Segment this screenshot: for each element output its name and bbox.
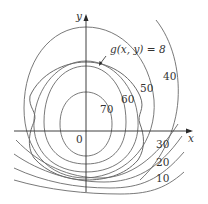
contour-diagram: y x 0 g(x, y) = 8 70 60 50 40 30 20 10 <box>0 0 208 204</box>
level-label-40: 40 <box>163 70 176 82</box>
level-label-30: 30 <box>156 138 169 150</box>
level-curve-30 <box>16 124 178 178</box>
x-axis-label: x <box>188 132 194 144</box>
origin-label: 0 <box>76 133 83 145</box>
level-label-70: 70 <box>100 103 113 115</box>
level-label-10: 10 <box>156 172 169 184</box>
level-label-50: 50 <box>140 82 153 94</box>
y-axis-arrow-icon <box>84 14 89 21</box>
level-curve-60 <box>44 66 126 164</box>
constraint-label: g(x, y) = 8 <box>110 43 166 55</box>
contour-plot: y x 0 g(x, y) = 8 70 60 50 40 30 20 10 <box>0 0 208 204</box>
level-label-60: 60 <box>121 93 134 105</box>
level-label-20: 20 <box>156 156 169 168</box>
y-axis-label: y <box>75 10 83 22</box>
